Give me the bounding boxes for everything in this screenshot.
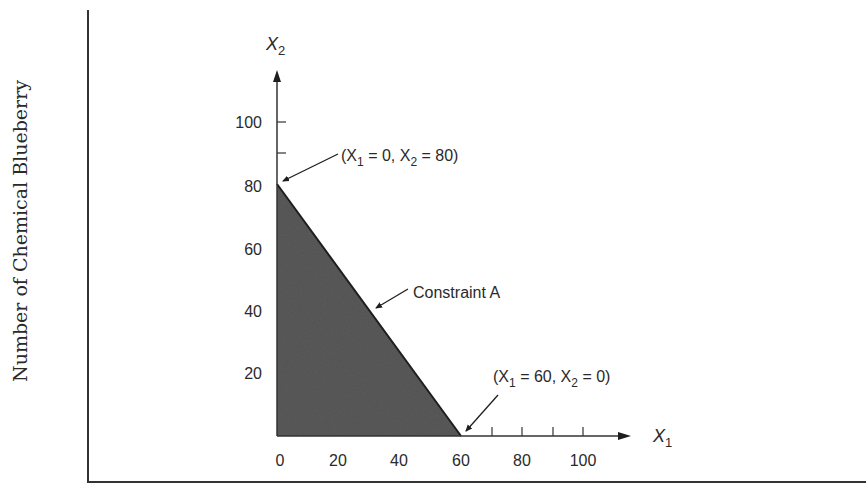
y-tick-label: 60 [244,241,262,258]
x-tick-label: 100 [570,452,597,469]
x-tick-label: 20 [329,452,347,469]
x-axis-name: X1 [652,426,672,450]
x-tick-label: 60 [452,452,470,469]
y-tick-label: 20 [244,365,262,382]
anno-constraint-a: Constraint A [413,284,500,301]
anno-bottom-arrow [466,395,498,431]
plot-area: X2 X1 100 80 60 40 20 0 20 40 60 80 100 … [0,0,866,495]
x-tick-label: 40 [390,452,408,469]
x-tick-label: 0 [276,452,285,469]
y-axis-name: X2 [265,34,285,58]
anno-constraint-arrow [376,289,408,308]
x-axis-arrow-icon [618,432,631,440]
x-tick-label: 80 [513,452,531,469]
y-tick-label: 100 [235,114,262,131]
y-tick-label: 80 [244,178,262,195]
anno-bottom-vertex: (X1 = 60, X2 = 0) [493,368,610,390]
y-axis-arrow-icon [273,70,281,82]
y-tick-label: 40 [244,303,262,320]
anno-top-vertex: (X1 = 0, X2 = 80) [341,147,458,169]
anno-top-arrow [283,154,338,181]
